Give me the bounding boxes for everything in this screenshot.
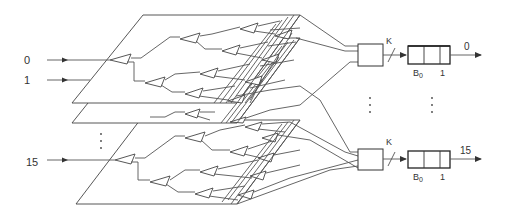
output-buffer [408, 46, 450, 64]
output-port-0: K B0 1 0 [358, 36, 481, 79]
input-label-1: 1 [24, 74, 30, 86]
output-label-0: 0 [464, 41, 470, 52]
bus-width-label: K [386, 36, 392, 46]
output-buffer [408, 151, 450, 168]
concentrator-box [358, 44, 383, 66]
switch-architecture-diagram: 0 1 15 K B0 1 0 [0, 0, 508, 214]
input-1: 1 [24, 74, 90, 86]
input-ellipsis [100, 133, 102, 149]
input-0: 0 [24, 54, 110, 66]
input-arrow-icon [62, 158, 68, 163]
input-arrow-icon [62, 58, 68, 63]
bus-width-label: K [386, 137, 392, 147]
buffer-label-b0: B0 [413, 172, 423, 183]
plane-input-15 [76, 120, 358, 204]
plane-input-0 [72, 15, 300, 103]
output-ellipsis [369, 97, 433, 113]
input-label-15: 15 [26, 156, 38, 168]
concentrator-box [358, 149, 383, 170]
output-port-15: K B0 1 15 [358, 137, 481, 183]
output-label-15: 15 [460, 145, 472, 156]
input-label-0: 0 [24, 54, 30, 66]
input-arrow-icon [62, 78, 68, 83]
buffer-label-b0: B0 [413, 68, 423, 79]
buffer-label-1: 1 [440, 68, 445, 78]
buffer-label-1: 1 [440, 172, 445, 182]
input-15: 15 [26, 156, 115, 168]
